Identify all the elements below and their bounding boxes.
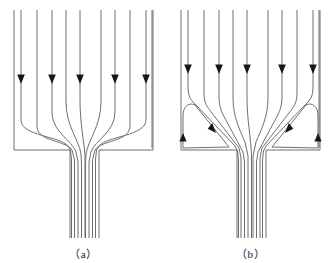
vortex-arrow-icon (314, 133, 321, 142)
duct-wall-a (14, 10, 153, 238)
streamline-diagram-a (0, 0, 167, 263)
streamline (37, 10, 75, 238)
streamline (80, 10, 85, 238)
streamline-diagram-b (167, 0, 334, 263)
flow-arrow-icon (309, 65, 317, 75)
streamline (188, 10, 239, 238)
flow-arrow-icon (17, 75, 25, 85)
vortex-arrow-icon (179, 133, 186, 142)
streamline (66, 10, 82, 238)
figure-board: （a） (0, 0, 334, 263)
flow-arrow-icon (243, 65, 251, 75)
flow-arrow-icon (76, 75, 84, 85)
streamline (96, 10, 147, 238)
flow-arrow-icon (278, 65, 286, 75)
flow-arrow-icon (215, 65, 223, 75)
streamline (263, 10, 314, 238)
panel-caption-a: （a） (0, 248, 167, 261)
figure-panel-b: （b） (167, 0, 334, 263)
figure-panel-a: （a） (0, 0, 167, 263)
streamline (21, 10, 72, 238)
flow-arrow-icon (184, 65, 192, 75)
panel-caption-b: （b） (167, 248, 334, 261)
flow-arrow-icon (48, 75, 56, 85)
streamline (93, 10, 131, 238)
duct-wall-b (181, 10, 320, 238)
flow-arrow-icon (111, 75, 119, 85)
streamline (204, 10, 241, 238)
flow-arrow-icon (142, 75, 150, 85)
